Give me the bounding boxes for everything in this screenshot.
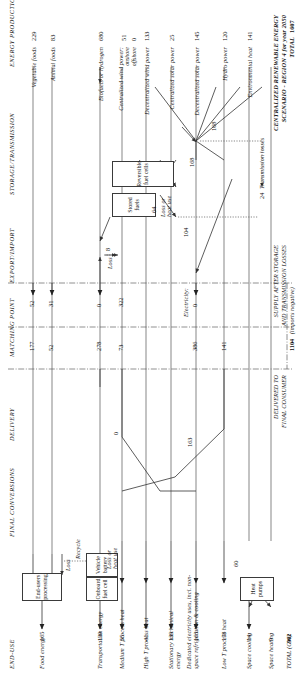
column-header-storage-transmission: STORAGE/TRANSMISSION [8,113,15,195]
production-label-decentralized-solar: Decentralized solar power [193,47,200,116]
supply-after-storage-line2: AND TRANSMISSION LOSSES [280,245,287,326]
matching-point-value-4: 386 [191,342,198,351]
production-value-environmental-heat: 141 [246,32,253,41]
box-label: End-users processing [35,574,49,600]
end-use-label-food-energy: Food energy [38,637,45,669]
production-label-vegetable-foods: Vegetable foods [30,47,37,88]
production-value-onshore: 51 [120,35,127,41]
export-import-value-4: 0 [191,304,198,307]
delivered-to-final-consumer-line1: DELIVERED TO [272,375,279,419]
production-value-vegetable-foods: 229 [30,32,37,41]
box-reversible-fuel-cells[interactable]: Reversible fuel cells [112,161,174,187]
end-use-label-space-heating: Space heating [267,633,274,669]
production-label-biofuels-hydrogen: Biofuels or hydrogen [97,47,104,101]
imports-negative-note: (imports negative) [288,287,295,334]
end-use-label-medium-t-heat: Medium T process heat [118,609,125,669]
annotation-loss: Loss [64,559,71,571]
annotation-loss-64-value: 64 [150,207,157,213]
end-use-label-space-cooling: Space cooling [245,633,252,669]
export-import-value-0: 52 [28,301,35,307]
annotation-loss-or-heat-use: Loss or heat use [106,547,119,569]
production-value-offshore: 0 [130,38,137,41]
box-stored-fuels[interactable]: Stored fuels [112,193,156,217]
production-label-environmental-heat: Environmental heat [246,47,253,98]
matching-point-value-0: 177 [28,342,35,351]
export-import-value-2: 0 [95,304,102,307]
annotation-flow-163: 163 [186,438,193,447]
column-header-end-use: END-USE [8,639,15,669]
production-label-offshore: offshore [131,47,138,66]
end-use-label-dedicated-electricity: Dedicated electricity uses, incl. non-sp… [186,569,199,669]
column-header-delivery: DELIVERY [8,408,15,441]
diagram-canvas: End-users processing Onboard fuel cell V… [0,0,297,687]
box-label: Reversible fuel cells [136,161,150,187]
production-value-hydro-power: 120 [221,32,228,41]
box-label: Onboard fuel cell [95,579,109,600]
sankey-stage: End-users processing Onboard fuel cell V… [0,0,297,687]
supply-after-storage-line1: SUPPLY AFTER STORAGE [272,245,279,317]
column-header-matching-point: MATCHING POINT [8,298,15,357]
annotation-flow-0: 0 [112,432,119,435]
column-header-export-import: EXPORT/IMPORT [8,228,15,283]
production-value-decentralized-wind: 133 [143,32,150,41]
scenario-title-line2: SCENARIO - REGION 4 for year 2050 [280,15,287,122]
export-import-value-3: 322 [117,298,124,307]
annotation-flow-104: 104 [182,228,189,237]
matching-point-value-5: 141 [220,342,227,351]
transmission-losses-value: 24 [258,193,265,199]
box-onboard-fuel-cell[interactable]: Onboard fuel cell [86,577,118,601]
delivered-value: 1104 [288,339,295,351]
production-label-hydro-power: Hydro power [221,47,228,81]
box-label: Stored fuels [127,195,141,215]
production-value-biofuels-hydrogen: 680 [97,32,104,41]
production-label-centralized-solar: Centralized solar power [168,47,175,109]
end-use-total-label: TOTAL (GW) [285,635,292,669]
transmission-losses-label: Transmission losses [258,138,265,189]
matching-point-value-1: 52 [47,345,54,351]
annotation-electricity: Electricity: [182,288,189,317]
production-label-onshore: onshore [124,47,131,66]
box-heat-pumps[interactable]: Heat pumps [240,577,274,601]
scenario-title-line1: CENTRALIZED RENEWABLE ENERGY [272,15,279,131]
delivered-to-final-consumer-line2: FINAL CONSUMER [280,375,287,428]
annotation-loss-8-label: Loss [106,257,113,269]
scenario-total-label: TOTAL [288,37,295,58]
end-use-label-low-t-heat: Low T process heat [220,619,227,669]
end-use-label-stationary-mechanical: Stationary mechanical energy [167,595,181,669]
production-label-animal-foods: Animal foods [49,47,56,81]
annotation-flow-168a: 168 [188,158,195,167]
annotation-recycle: Recycle [74,539,81,559]
annotation-loss-8-value: 8 [104,248,111,251]
annotation-loss-64-label: Loss or heat use [160,193,173,217]
end-use-label-transportation: Transportation energy [96,612,103,669]
production-label-decentralized-wind: Decentralized wind power [143,47,150,115]
box-label: Heat pumps [250,579,264,599]
scenario-total-value: 1607 [288,20,295,33]
production-value-centralized-solar: 25 [168,35,175,41]
production-value-decentralized-solar: 145 [193,32,200,41]
column-header-energy-production: ENERGY PRODUCTION [8,0,15,67]
annotation-flow-168b: 168 [210,122,217,131]
box-end-users-processing[interactable]: End-users processing [22,573,62,601]
column-header-final-conversions: FINAL CONVERSIONS [8,468,15,537]
production-value-animal-foods: 83 [49,35,56,41]
export-import-value-1: 31 [47,301,54,307]
matching-point-value-3: 73 [117,345,124,351]
annotation-flow-60: 60 [232,561,239,567]
end-use-label-high-t-heat: High T process heat [142,617,149,669]
matching-point-value-2: 278 [95,342,102,351]
